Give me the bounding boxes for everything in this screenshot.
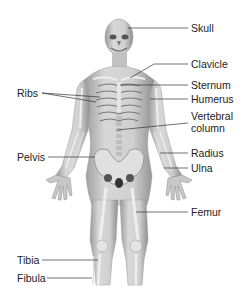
neck — [112, 52, 127, 68]
right-hand — [166, 175, 192, 200]
label-sternum: Sternum — [191, 80, 231, 91]
label-skull: Skull — [191, 23, 214, 34]
label-vertebral-column-line1: Vertebral — [191, 111, 233, 122]
label-clavicle: Clavicle — [191, 59, 228, 70]
label-humerus: Humerus — [191, 94, 234, 105]
label-vertebral-column-line2: column — [191, 123, 225, 134]
spine — [116, 116, 122, 156]
head — [105, 19, 133, 55]
left-hand — [46, 175, 72, 200]
label-ulna: Ulna — [191, 163, 213, 174]
label-femur: Femur — [191, 207, 221, 218]
label-radius: Radius — [191, 148, 224, 159]
sternum-bone — [117, 82, 121, 112]
label-pelvis: Pelvis — [17, 152, 45, 163]
label-tibia: Tibia — [17, 255, 39, 266]
body-figure — [46, 19, 192, 285]
label-fibula: Fibula — [17, 273, 46, 284]
label-ribs: Ribs — [17, 88, 38, 99]
